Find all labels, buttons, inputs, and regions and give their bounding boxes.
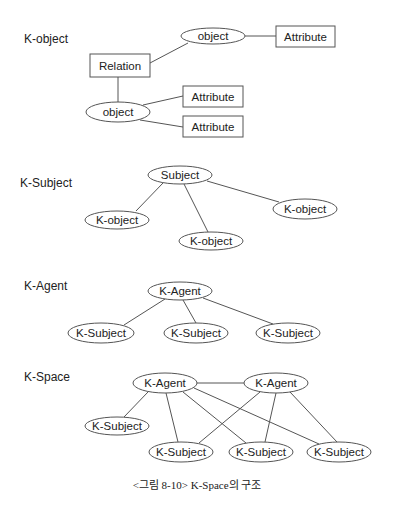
node-attr2: Attribute bbox=[183, 86, 243, 107]
edge-obj2-attr2 bbox=[143, 96, 183, 105]
node-attr1: Attribute bbox=[276, 26, 335, 47]
node-label: K-Subject bbox=[263, 327, 314, 339]
node-label: K-object bbox=[190, 235, 233, 247]
edge-ag1-s1 bbox=[124, 392, 148, 417]
node-label: K-Subject bbox=[76, 327, 127, 339]
edge-subj-ko3 bbox=[207, 181, 279, 202]
node-label: K-Subject bbox=[92, 420, 143, 432]
k-space-diagram: K-objectobjectAttributeRelationobjectAtt… bbox=[0, 0, 396, 516]
node-label: Attribute bbox=[192, 121, 235, 133]
node-obj1: object bbox=[181, 28, 245, 44]
edge-ag1-s3 bbox=[183, 392, 246, 443]
edge-ag2-s2 bbox=[199, 392, 260, 443]
node-label: K-Subject bbox=[236, 446, 287, 458]
node-s3: K-Subject bbox=[229, 442, 293, 462]
node-label: K-object bbox=[284, 203, 327, 215]
node-ks2: K-Subject bbox=[164, 323, 228, 343]
edge-ag2-s3 bbox=[265, 393, 276, 442]
node-s4: K-Subject bbox=[307, 442, 371, 462]
edge-obj2-attr3 bbox=[140, 120, 183, 127]
edge-agent-ks2 bbox=[183, 300, 196, 323]
node-label: object bbox=[198, 30, 229, 42]
edge-subj-ko2 bbox=[184, 184, 208, 232]
node-ko1: K-object bbox=[85, 211, 149, 229]
section-label: K-Subject bbox=[20, 176, 73, 190]
node-label: K-Subject bbox=[156, 446, 207, 458]
node-attr3: Attribute bbox=[183, 116, 243, 137]
node-label: Attribute bbox=[284, 31, 327, 43]
section-k-space: K-SpaceK-AgentK-AgentK-SubjectK-SubjectK… bbox=[24, 370, 371, 462]
edge-agent-ks1 bbox=[124, 299, 165, 325]
node-label: K-Agent bbox=[159, 285, 201, 297]
node-ag1: K-Agent bbox=[133, 373, 197, 393]
node-label: K-object bbox=[96, 214, 139, 226]
edge-agent-ks3 bbox=[203, 298, 273, 324]
node-label: Attribute bbox=[192, 91, 235, 103]
node-s2: K-Subject bbox=[149, 442, 213, 462]
node-label: K-Subject bbox=[171, 327, 222, 339]
section-k-subject: K-SubjectSubjectK-objectK-objectK-object bbox=[20, 166, 337, 250]
node-ko3: K-object bbox=[273, 199, 337, 219]
node-label: K-Agent bbox=[144, 377, 186, 389]
section-label: K-object bbox=[24, 32, 69, 46]
edge-ag1-s2 bbox=[166, 393, 178, 442]
node-subj: Subject bbox=[148, 166, 212, 184]
node-label: object bbox=[103, 106, 134, 118]
node-obj2: object bbox=[86, 102, 150, 122]
node-ks3: K-Subject bbox=[256, 323, 320, 343]
section-k-agent: K-AgentK-AgentK-SubjectK-SubjectK-Subjec… bbox=[24, 279, 320, 343]
node-label: K-Agent bbox=[255, 377, 297, 389]
node-label: Subject bbox=[161, 169, 200, 181]
node-label: K-Subject bbox=[314, 446, 365, 458]
figure-caption: <그림 8-10> K-Space의 구조 bbox=[133, 479, 262, 491]
node-label: Relation bbox=[99, 60, 141, 72]
node-ks1: K-Subject bbox=[68, 323, 134, 343]
edge-rel-obj1 bbox=[150, 43, 188, 63]
section-k-object: K-objectobjectAttributeRelationobjectAtt… bbox=[24, 26, 335, 137]
section-label: K-Space bbox=[24, 370, 70, 384]
edges bbox=[136, 181, 279, 232]
node-s1: K-Subject bbox=[85, 417, 149, 435]
diagram-sections: K-objectobjectAttributeRelationobjectAtt… bbox=[20, 26, 371, 462]
node-ko2: K-object bbox=[179, 232, 243, 250]
edge-subj-ko1 bbox=[136, 183, 163, 211]
edges bbox=[124, 298, 273, 325]
node-ag2: K-Agent bbox=[244, 373, 308, 393]
node-agent: K-Agent bbox=[148, 282, 212, 300]
section-label: K-Agent bbox=[24, 279, 68, 293]
node-rel: Relation bbox=[90, 54, 150, 77]
